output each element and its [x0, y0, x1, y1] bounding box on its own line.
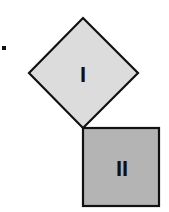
bullet-point [2, 46, 6, 50]
square-II-label: II [116, 156, 128, 181]
square-I-label: I [80, 62, 86, 87]
diagram-canvas: I II [0, 0, 169, 212]
